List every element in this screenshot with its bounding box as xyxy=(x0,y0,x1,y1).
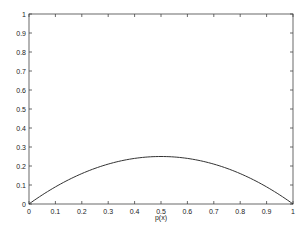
y-tick-label: 0.3 xyxy=(16,144,26,151)
y-tick-label: 0.5 xyxy=(16,106,26,113)
y-tick-label: 0.9 xyxy=(16,30,26,37)
y-tick-label: 0.4 xyxy=(16,125,26,132)
x-tick-label: 0.3 xyxy=(103,208,113,215)
plot-area xyxy=(29,14,293,204)
x-tick-label: 0.6 xyxy=(183,208,193,215)
line-chart: 00.10.20.30.40.50.60.70.80.91 00.10.20.3… xyxy=(0,0,308,231)
y-tick-label: 0.2 xyxy=(16,163,26,170)
y-tick-label: 0.7 xyxy=(16,68,26,75)
x-tick-label: 1 xyxy=(291,208,295,215)
x-tick-label: 0.9 xyxy=(262,208,272,215)
y-tick-label: 0.8 xyxy=(16,49,26,56)
x-tick-label: 0 xyxy=(27,208,31,215)
x-axis-label: p(x) xyxy=(155,214,167,222)
x-tick-label: 0.1 xyxy=(51,208,61,215)
y-tick-label: 1 xyxy=(22,11,26,18)
y-tick-label: 0.1 xyxy=(16,182,26,189)
x-tick-label: 0.4 xyxy=(130,208,140,215)
y-tick-label: 0.6 xyxy=(16,87,26,94)
x-tick-label: 0.7 xyxy=(209,208,219,215)
y-tick-label: 0 xyxy=(22,201,26,208)
x-tick-label: 0.2 xyxy=(77,208,87,215)
x-tick-label: 0.8 xyxy=(235,208,245,215)
